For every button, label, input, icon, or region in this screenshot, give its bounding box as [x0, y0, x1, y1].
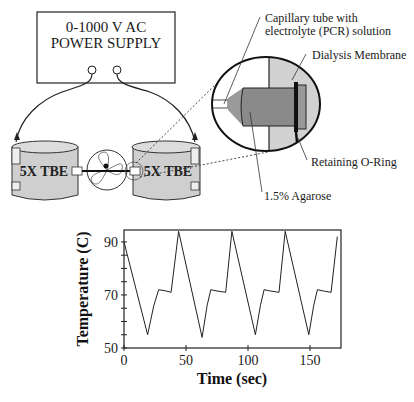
inset-detail — [210, 57, 321, 152]
right-reservoir: 5X TBE — [132, 132, 200, 200]
power-supply: 0-1000 V AC POWER SUPPLY — [37, 12, 175, 83]
electrode-left-icon — [14, 132, 20, 140]
y-axis-label: Temperature (C) — [74, 231, 92, 346]
dialysis-label: Dialysis Membrane — [312, 48, 406, 62]
x-axis-label: Time (sec) — [197, 370, 267, 388]
y-tick-label: 50 — [104, 341, 118, 356]
power-supply-line1: 0-1000 V AC — [66, 19, 146, 35]
x-tick-label: 150 — [300, 353, 321, 368]
x-tick-label: 0 — [121, 353, 128, 368]
capillary-label-line1: Capillary tube with — [265, 11, 358, 25]
y-tick-label: 70 — [104, 288, 118, 303]
temperature-chart: 507090 050100150 Time (sec) Temperature … — [74, 230, 341, 388]
plot-frame — [124, 230, 341, 348]
oring-label: Retaining O-Ring — [311, 155, 397, 169]
y-tick-label: 90 — [104, 235, 118, 250]
agarose-plug — [241, 88, 302, 126]
left-reservoir: 5X TBE — [12, 132, 78, 200]
left-reservoir-label: 5X TBE — [20, 164, 68, 179]
x-tick-label: 50 — [179, 353, 193, 368]
capillary-label-line2: electrolyte (PCR) solution — [265, 24, 391, 38]
agarose-label: 1.5% Agarose — [264, 189, 331, 203]
dialysis-membrane — [294, 82, 298, 132]
x-tick-label: 100 — [238, 353, 259, 368]
terminal-left-icon — [88, 66, 96, 74]
power-supply-line2: POWER SUPPLY — [51, 35, 162, 51]
terminal-right-icon — [113, 66, 121, 74]
figure: 0-1000 V AC POWER SUPPLY 5X TBE 5X TBE — [0, 0, 414, 402]
